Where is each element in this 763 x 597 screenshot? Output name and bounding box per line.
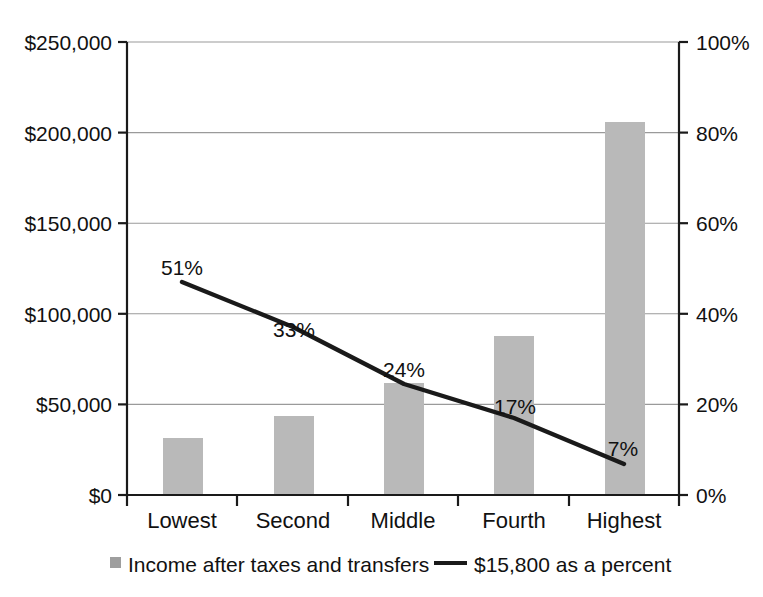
left-tick-label: $150,000 xyxy=(24,212,112,235)
gridlines xyxy=(127,42,679,404)
left-tick-label: $50,000 xyxy=(36,393,112,416)
legend-label-percent: $15,800 as a percent xyxy=(474,553,671,576)
right-tick-label: 100% xyxy=(696,31,750,54)
right-tick-label: 40% xyxy=(696,303,738,326)
bar-lowest xyxy=(163,438,203,495)
left-tick-label: $200,000 xyxy=(24,122,112,145)
left-axis-ticks xyxy=(118,42,127,495)
data-label-highest: 7% xyxy=(608,437,638,460)
category-label-highest: Highest xyxy=(587,508,662,533)
legend-label-income: Income after taxes and transfers xyxy=(128,553,429,576)
data-label-lowest: 51% xyxy=(161,256,203,279)
right-axis-ticks xyxy=(679,42,688,495)
left-tick-label: $250,000 xyxy=(24,31,112,54)
data-label-fourth: 17% xyxy=(494,395,536,418)
bar-series xyxy=(163,122,645,495)
left-axis-tick-labels: $250,000 $200,000 $150,000 $100,000 $50,… xyxy=(24,31,112,507)
left-tick-label: $0 xyxy=(89,484,112,507)
category-label-lowest: Lowest xyxy=(147,508,217,533)
category-axis-ticks xyxy=(127,495,679,506)
category-labels: Lowest Second Middle Fourth Highest xyxy=(147,508,661,533)
left-tick-label: $100,000 xyxy=(24,303,112,326)
category-label-middle: Middle xyxy=(371,508,436,533)
category-label-fourth: Fourth xyxy=(482,508,546,533)
right-tick-label: 0% xyxy=(696,484,726,507)
bar-middle xyxy=(384,383,424,495)
category-label-second: Second xyxy=(256,508,331,533)
combo-bar-line-chart: $250,000 $200,000 $150,000 $100,000 $50,… xyxy=(0,0,763,597)
chart-legend: Income after taxes and transfers $15,800… xyxy=(110,553,671,576)
right-tick-label: 60% xyxy=(696,212,738,235)
right-axis-tick-labels: 100% 80% 60% 40% 20% 0% xyxy=(696,31,750,507)
data-label-middle: 24% xyxy=(383,358,425,381)
data-label-second: 33% xyxy=(273,318,315,341)
chart-container: $250,000 $200,000 $150,000 $100,000 $50,… xyxy=(0,0,763,597)
right-tick-label: 20% xyxy=(696,393,738,416)
right-tick-label: 80% xyxy=(696,122,738,145)
bar-second xyxy=(274,416,314,495)
legend-swatch-bar-icon xyxy=(110,557,121,568)
